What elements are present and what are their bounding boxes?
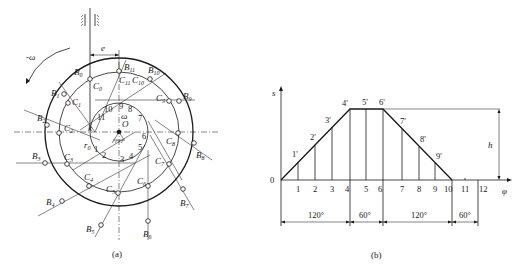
svg-text:4: 4 <box>345 184 350 194</box>
svg-text:7': 7' <box>400 116 406 126</box>
c-points: C0 C1 C2 C3 C4 C5 C6 C7 C8 C9 C10 C11 <box>57 75 181 195</box>
svg-text:B2: B2 <box>37 113 46 124</box>
segment-dimensions: 120° 60° 120° 60° <box>281 210 478 224</box>
svg-text:3': 3' <box>325 115 331 125</box>
caption-b: (b) <box>371 250 382 260</box>
svg-text:C3: C3 <box>64 152 73 163</box>
y-axis-label: s <box>272 88 276 98</box>
offset-label: e <box>101 43 105 53</box>
svg-text:C11: C11 <box>119 75 131 86</box>
svg-text:5: 5 <box>138 142 142 152</box>
svg-text:8: 8 <box>417 184 421 194</box>
svg-text:2': 2' <box>310 132 316 142</box>
svg-text:4: 4 <box>129 151 134 161</box>
svg-text:10: 10 <box>104 104 113 114</box>
x-axis-label: φ <box>502 186 507 196</box>
svg-text:1: 1 <box>296 184 300 194</box>
svg-text:C0: C0 <box>93 81 102 92</box>
svg-text:1: 1 <box>94 144 98 154</box>
svg-text:4': 4' <box>342 98 348 108</box>
svg-text:B11: B11 <box>124 62 135 73</box>
svg-text:C2: C2 <box>64 123 73 134</box>
svg-text:7: 7 <box>400 184 404 194</box>
curve-point-labels: 1'2'3' 4'5'6' 7'8'9' <box>292 97 442 161</box>
svg-text:C5: C5 <box>106 184 115 195</box>
svg-text:B9: B9 <box>183 91 192 102</box>
svg-text:8': 8' <box>420 134 426 144</box>
svg-text:9: 9 <box>119 101 123 111</box>
displacement-curve <box>281 109 452 180</box>
svg-text:C6: C6 <box>137 176 146 187</box>
svg-text:6: 6 <box>142 131 146 141</box>
svg-text:9: 9 <box>433 184 437 194</box>
svg-text:2: 2 <box>313 184 317 194</box>
svg-text:9': 9' <box>436 151 442 161</box>
svg-text:B4: B4 <box>46 197 55 208</box>
r0-label: r0 <box>84 140 91 151</box>
svg-text:5: 5 <box>364 184 368 194</box>
svg-text:C8: C8 <box>166 136 175 147</box>
figure-b: s φ 0 h 1'2'3' 4'5'6' <box>270 86 512 260</box>
svg-text:2: 2 <box>102 150 106 160</box>
svg-text:12: 12 <box>479 184 488 194</box>
figure-a: e -ω O <box>14 8 218 259</box>
svg-text:B3: B3 <box>32 151 41 162</box>
cam-profile-diagram: e -ω O <box>0 0 518 270</box>
svg-text:7: 7 <box>138 113 142 123</box>
omega-center-label: ω <box>121 111 127 121</box>
svg-text:C4: C4 <box>84 172 93 183</box>
svg-text:11: 11 <box>461 184 469 194</box>
svg-text:6': 6' <box>379 97 385 107</box>
svg-text:11: 11 <box>97 112 105 122</box>
x-tick-labels: 123 456 789 101112 <box>296 184 488 194</box>
segment-rise: 120° <box>308 210 324 220</box>
svg-text:8: 8 <box>128 104 132 114</box>
svg-text:B8: B8 <box>196 150 205 161</box>
segment-dwell-low: 60° <box>459 210 471 220</box>
svg-text:6: 6 <box>378 184 382 194</box>
svg-text:3: 3 <box>120 154 124 164</box>
caption-a: (a) <box>112 249 122 259</box>
segment-dwell-high: 60° <box>359 210 371 220</box>
origin-label: 0 <box>270 175 274 185</box>
svg-text:3: 3 <box>330 184 334 194</box>
svg-text:C9: C9 <box>156 93 165 104</box>
omega-label: -ω <box>26 52 35 62</box>
svg-text:B6: B6 <box>143 229 152 240</box>
svg-text:5': 5' <box>362 97 368 107</box>
h-label: h <box>488 140 493 150</box>
svg-text:C1: C1 <box>72 97 81 108</box>
svg-text:10: 10 <box>444 184 453 194</box>
svg-text:1': 1' <box>292 149 298 159</box>
segment-return: 120° <box>411 210 427 220</box>
svg-text:B5: B5 <box>86 224 95 235</box>
